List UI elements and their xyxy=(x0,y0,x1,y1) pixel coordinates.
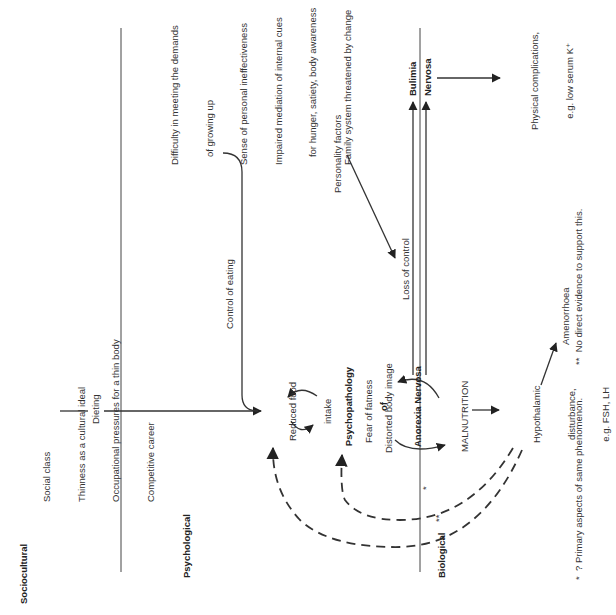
psychological-factor: Sense of personal ineffectiveness xyxy=(238,8,250,165)
footnote-double-star: ** No direct evidence to support this. xyxy=(573,209,585,365)
bulimia-label: Bulimia xyxy=(407,62,419,96)
dashed-arc-single-star xyxy=(341,448,513,520)
psychological-factor: Impaired mediation of internal cues xyxy=(273,8,285,165)
footnote-single-star: * ? Primary aspects of same phenomenon. xyxy=(573,398,585,580)
fear-of-fatness-label: Fear of fatness xyxy=(363,380,375,443)
hypothalamic-to-amenorrhoea-arrow xyxy=(541,343,556,385)
hypothalamic-node: Hypothalamic disturbance, e.g. FSH, LH xyxy=(508,385,616,443)
dashed-arc-double-star xyxy=(273,448,522,547)
control-of-eating-label: Control of eating xyxy=(224,259,236,329)
dieting-label: Dieting xyxy=(90,394,102,424)
domain-label-psychological: Psychological xyxy=(181,514,193,578)
nervosa-label: Nervosa xyxy=(422,59,434,97)
personality-factors-arrow xyxy=(347,155,395,258)
sociocultural-factor: Thinness as a cultural ideal xyxy=(76,339,88,502)
distorted-body-image-label: Distorted body image xyxy=(383,363,395,453)
malnutrition-label: MALNUTRITION xyxy=(459,381,471,452)
psychopathology-node: Psychopathology of Anorexia Nervosa xyxy=(320,366,435,447)
psychological-factor: for hunger, satiety, body awareness xyxy=(307,8,319,165)
single-star-marker: * xyxy=(420,486,432,490)
sociocultural-factor: Competitive career xyxy=(145,339,157,502)
domain-label-biological: Biological xyxy=(436,533,448,578)
physical-complications-node: Physical complications, e.g. low serum K… xyxy=(506,32,587,130)
amenorrhoea-label: Amenorrhoea xyxy=(560,287,572,345)
sociocultural-factor: Occupational pressures for a thin body xyxy=(110,339,122,502)
domain-label-sociocultural: Sociocultural xyxy=(18,544,30,604)
double-star-marker: ** xyxy=(433,515,445,522)
personality-factors-label: Personality factors xyxy=(332,115,344,193)
psychological-factor: of growing up xyxy=(204,8,216,165)
sociocultural-factor: Social class xyxy=(41,339,53,502)
loss-of-control-label: Loss of control xyxy=(400,238,412,300)
psychological-factor: Difficulty in meeting the demands xyxy=(169,8,181,165)
